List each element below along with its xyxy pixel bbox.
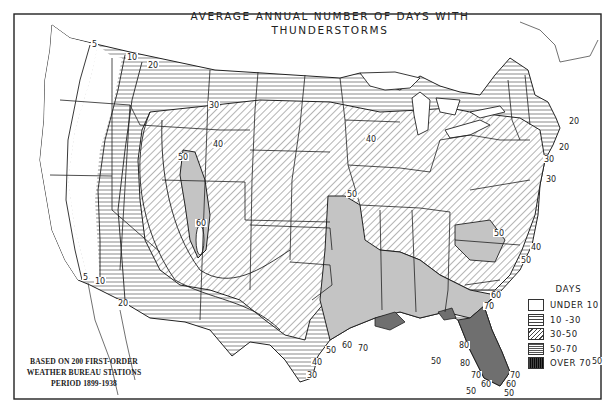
blank-swatch-icon xyxy=(528,299,544,311)
legend-item-over-70: OVER 70 xyxy=(528,356,603,371)
contour-label: 40 xyxy=(213,140,223,149)
horizontal-lines-swatch-icon xyxy=(528,314,544,326)
title-line-2: THUNDERSTORMS xyxy=(180,23,480,37)
contour-label: 60 xyxy=(506,380,516,389)
contour-label: 20 xyxy=(569,117,579,126)
contour-label: 10 xyxy=(95,277,105,286)
contour-label: 10 xyxy=(127,53,137,62)
notes-line-3: PERIOD 1899-1938 xyxy=(17,378,151,389)
thunderstorm-map: 5102030404050506050510202020303030405060… xyxy=(0,0,615,414)
legend-title: DAYS xyxy=(534,284,603,294)
contour-label: 30 xyxy=(209,101,219,110)
contour-label: 40 xyxy=(366,135,376,144)
contour-label: 50 xyxy=(326,346,336,355)
contour-label: 20 xyxy=(118,299,128,308)
contour-label: 70 xyxy=(358,344,368,353)
contour-label: 60 xyxy=(481,380,491,389)
contour-label: 70 xyxy=(510,371,520,380)
dense-lines-swatch-icon xyxy=(528,343,544,355)
contour-label: 60 xyxy=(342,341,352,350)
title-line-1: AVERAGE ANNUAL NUMBER OF DAYS WITH xyxy=(180,9,480,23)
legend: DAYS UNDER 10 10 -30 30-50 50-70 OVER 70 xyxy=(528,284,603,371)
map-title: AVERAGE ANNUAL NUMBER OF DAYS WITH THUND… xyxy=(180,9,480,37)
contour-label: 30 xyxy=(307,371,317,380)
figure-caption xyxy=(160,401,460,411)
legend-item-30-50: 30-50 xyxy=(528,327,603,342)
contour-label: 5 xyxy=(83,273,88,282)
legend-item-10-30: 10 -30 xyxy=(528,313,603,328)
notes-line-1: BASED ON 200 FIRST-ORDER xyxy=(17,356,151,367)
contour-label: 40 xyxy=(531,243,541,252)
contour-label: 50 xyxy=(347,190,357,199)
legend-item-under-10: UNDER 10 xyxy=(528,298,603,313)
contour-label: 50 xyxy=(521,256,531,265)
source-notes: BASED ON 200 FIRST-ORDER WEATHER BUREAU … xyxy=(17,356,151,389)
contour-label: 20 xyxy=(148,61,158,70)
contour-label: 50 xyxy=(178,153,188,162)
contour-label: 50 xyxy=(466,387,476,396)
legend-label: OVER 70 xyxy=(550,358,591,368)
contour-label: 80 xyxy=(459,341,469,350)
contour-label: 50 xyxy=(431,357,441,366)
legend-label: UNDER 10 xyxy=(550,300,599,310)
contour-label: 50 xyxy=(504,389,514,398)
contour-label: 50 xyxy=(494,229,504,238)
legend-item-50-70: 50-70 xyxy=(528,342,603,357)
crosshatch-swatch-icon xyxy=(528,357,544,369)
contour-label: 80 xyxy=(460,359,470,368)
contour-label: 60 xyxy=(491,291,501,300)
diagonal-hatch-swatch-icon xyxy=(528,328,544,340)
legend-label: 30-50 xyxy=(550,329,578,339)
contour-label: 5 xyxy=(92,40,97,49)
legend-label: 10 -30 xyxy=(550,315,581,325)
legend-label: 50-70 xyxy=(550,344,578,354)
contour-label: 60 xyxy=(196,219,206,228)
contour-label: 70 xyxy=(484,302,494,311)
contour-label: 40 xyxy=(312,358,322,367)
contour-label: 30 xyxy=(544,155,554,164)
contour-label: 30 xyxy=(546,175,556,184)
contour-label: 20 xyxy=(559,143,569,152)
contour-label: 70 xyxy=(471,371,481,380)
notes-line-2: WEATHER BUREAU STATIONS xyxy=(17,367,151,378)
